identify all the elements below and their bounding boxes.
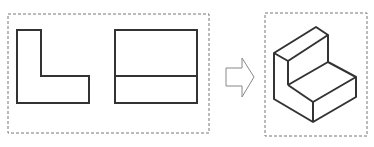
- side-view-outline: [115, 30, 197, 103]
- tall-top-front-edge: [274, 53, 288, 61]
- isometric-outline: [274, 27, 356, 122]
- orthographic-panel-border: [8, 14, 209, 133]
- step-left-edge: [288, 85, 313, 102]
- step-front-edge: [313, 77, 356, 102]
- tall-top-edge: [288, 35, 328, 61]
- right-arrow-icon: [226, 58, 254, 97]
- step-back-edge: [288, 62, 328, 85]
- diagram-canvas: [0, 0, 374, 147]
- isometric-l-block: [274, 27, 356, 122]
- l-shape-front-view: [17, 30, 89, 103]
- side-view: [115, 30, 197, 103]
